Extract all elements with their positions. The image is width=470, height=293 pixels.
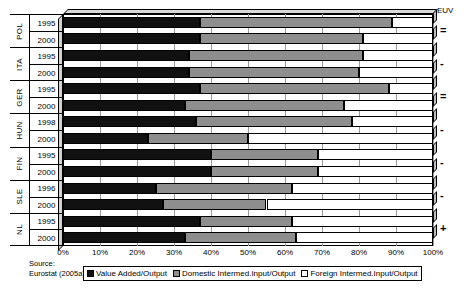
euv-symbol-hun: - (440, 124, 444, 135)
year-label: 2000 (30, 97, 63, 114)
y-axis-labels: POL19952000ITA19952000GER19952000HUN1998… (0, 14, 63, 246)
legend-swatch-di (173, 270, 180, 277)
bar-segment-di (156, 183, 293, 194)
bar-row (63, 199, 433, 210)
year-label: 1996 (30, 181, 63, 197)
year-label: 1995 (30, 148, 63, 164)
legend-item: Foreign Intermed.Input/Output (301, 269, 417, 278)
source-note: Source: Eurostat (2005a) (29, 259, 85, 279)
bar-segment-di (200, 83, 389, 94)
bar-segment-di (211, 166, 318, 177)
year-labels: 19952000 (30, 81, 63, 113)
bar-segment-fi (363, 50, 433, 61)
euv-symbol-sle: - (440, 190, 444, 201)
bar-segment-va (63, 33, 200, 44)
legend-swatch-va (87, 270, 94, 277)
year-label: 2000 (30, 31, 63, 48)
legend-item: Value Added/Output (87, 269, 167, 278)
bar-segment-di (189, 50, 363, 61)
bar-segment-fi (292, 216, 433, 227)
bar-row (63, 83, 433, 94)
year-label: 1998 (30, 114, 63, 130)
year-labels: 19952000 (30, 15, 63, 47)
bar-segment-va (63, 50, 189, 61)
bar-segment-va (63, 17, 200, 28)
y-axis-group-ita: ITA19952000 (10, 47, 63, 80)
euv-symbol-ger: = (440, 91, 446, 102)
bar-segment-di (163, 199, 267, 210)
year-labels: 19952000 (30, 48, 63, 80)
bar-segment-fi (248, 133, 433, 144)
bar-segment-fi (389, 83, 433, 94)
year-label: 1995 (30, 214, 63, 230)
bar-segment-di (200, 33, 363, 44)
bar-segment-fi (318, 166, 433, 177)
country-label: SLE (10, 181, 30, 213)
source-label: Source: (29, 259, 85, 269)
y-axis-group-fin: FIN19952000 (10, 147, 63, 180)
y-axis-group-sle: SLE19962000 (10, 180, 63, 213)
bar-row (63, 17, 433, 28)
bar-row (63, 67, 433, 78)
country-label: POL (10, 15, 30, 47)
bar-segment-di (185, 100, 344, 111)
bar-segment-va (63, 199, 163, 210)
bar-segment-va (63, 67, 189, 78)
x-axis-tick-label: 80% (351, 248, 367, 257)
x-axis-tick-label: 40% (203, 248, 219, 257)
country-label: HUN (10, 114, 30, 146)
bar-row (63, 50, 433, 61)
bar-segment-di (200, 216, 293, 227)
bar-segment-fi (344, 100, 433, 111)
bar-row (63, 100, 433, 111)
bar-segment-fi (359, 67, 433, 78)
x-axis-tick-label: 10% (92, 248, 108, 257)
bar-segment-di (185, 232, 296, 243)
bar-series (63, 14, 433, 246)
year-label: 1995 (30, 48, 63, 64)
bar-segment-di (148, 133, 248, 144)
legend-label: Foreign Intermed.Input/Output (310, 269, 417, 278)
bar-segment-fi (267, 199, 434, 210)
y-axis-group-pol: POL19952000 (10, 14, 63, 47)
plot-area (63, 14, 433, 246)
bar-row (63, 216, 433, 227)
bar-row (63, 166, 433, 177)
bar-segment-va (63, 83, 200, 94)
x-axis-tick-label: 60% (277, 248, 293, 257)
year-label: 2000 (30, 64, 63, 81)
source-value: Eurostat (2005a) (29, 269, 85, 279)
bar-segment-va (63, 166, 211, 177)
country-label: FIN (10, 148, 30, 180)
country-label: ITA (10, 48, 30, 80)
bar-row (63, 232, 433, 243)
year-label: 2000 (30, 164, 63, 181)
bar-segment-di (200, 17, 392, 28)
x-axis-tick-label: 90% (388, 248, 404, 257)
x-axis-tick-label: 20% (129, 248, 145, 257)
x-axis-tick-label: 0% (57, 248, 69, 257)
x-axis: 0%10%20%30%40%50%60%70%80%90%100% (63, 248, 433, 262)
bar-row (63, 116, 433, 127)
y-axis-group-nl: NL19952000 (10, 213, 63, 246)
x-axis-tick-label: 70% (314, 248, 330, 257)
x-axis-tick-label: 50% (240, 248, 256, 257)
y-axis-group-hun: HUN19982000 (10, 113, 63, 146)
year-label: 2000 (30, 130, 63, 147)
bar-row (63, 33, 433, 44)
bar-segment-va (63, 100, 185, 111)
legend-label: Domestic Intermed.Input/Output (182, 269, 295, 278)
country-label: NL (10, 214, 30, 245)
bar-segment-va (63, 216, 200, 227)
country-label: GER (10, 81, 30, 113)
legend-swatch-fi (301, 270, 308, 277)
x-axis-tick-label: 30% (166, 248, 182, 257)
euv-symbol-pol: = (440, 25, 446, 36)
legend-label: Value Added/Output (96, 269, 167, 278)
bar-segment-fi (318, 149, 433, 160)
year-labels: 19962000 (30, 181, 63, 213)
chart-figure: POL19952000ITA19952000GER19952000HUN1998… (0, 0, 470, 293)
x-axis-tick-label: 100% (423, 248, 443, 257)
bar-segment-fi (292, 183, 433, 194)
bar-segment-va (63, 149, 211, 160)
